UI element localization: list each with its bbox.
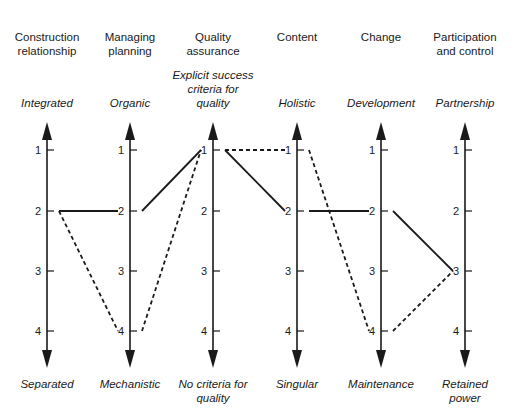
tick-label: 1: [285, 144, 291, 156]
tick-label: 2: [118, 205, 124, 217]
tick-label: 1: [369, 144, 375, 156]
tick-label: 3: [369, 265, 375, 277]
arrow-down-icon: [376, 350, 386, 368]
tick-label: 4: [369, 325, 375, 337]
solid-series-segment: [393, 211, 453, 271]
tick-label: 4: [201, 325, 207, 337]
tick-label: 3: [118, 265, 124, 277]
tick-label: 1: [201, 144, 207, 156]
tick-label: 3: [285, 265, 291, 277]
arrow-up-icon: [125, 122, 135, 140]
tick-label: 1: [35, 144, 41, 156]
arrow-up-icon: [208, 122, 218, 140]
arrow-down-icon: [208, 350, 218, 368]
tick-label: 2: [201, 205, 207, 217]
arrow-up-icon: [42, 122, 52, 140]
arrow-down-icon: [292, 350, 302, 368]
dashed-series-segment: [309, 150, 369, 331]
arrow-down-icon: [460, 350, 470, 368]
tick-label: 2: [285, 205, 291, 217]
tick-label: 2: [35, 205, 41, 217]
arrow-up-icon: [460, 122, 470, 140]
tick-label: 2: [453, 205, 459, 217]
dashed-series-segment: [393, 271, 453, 331]
tick-label: 1: [453, 144, 459, 156]
dashed-series-segment: [142, 150, 201, 331]
tick-label: 1: [118, 144, 124, 156]
tick-label: 3: [35, 265, 41, 277]
tick-label: 4: [453, 325, 459, 337]
tick-label: 4: [285, 325, 291, 337]
tick-label: 4: [118, 325, 124, 337]
tick-label: 2: [369, 205, 375, 217]
tick-label: 3: [453, 265, 459, 277]
tick-label: 4: [35, 325, 41, 337]
parallel-axes-diagram: 123412341234123412341234: [0, 0, 515, 417]
tick-label: 3: [201, 265, 207, 277]
solid-series-segment: [225, 150, 285, 211]
dashed-series-segment: [59, 211, 118, 331]
arrow-down-icon: [42, 350, 52, 368]
solid-series-segment: [142, 150, 201, 211]
arrow-up-icon: [292, 122, 302, 140]
arrow-down-icon: [125, 350, 135, 368]
arrow-up-icon: [376, 122, 386, 140]
